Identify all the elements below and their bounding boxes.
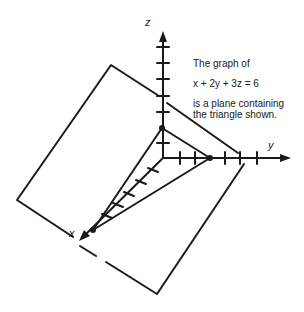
caption: The graph of x + 2y + 3z = 6 is a plane … [193,58,303,120]
x-intercept-dot [90,227,96,233]
plane-diagram [0,0,304,312]
y-axis [163,152,282,164]
caption-line-4: the triangle shown. [193,109,303,120]
x-axis-label: x [69,227,75,239]
x-axis [84,158,163,236]
caption-line-3: is a plane containing [193,98,303,109]
triangle [93,128,210,230]
y-intercept-dot [207,155,213,161]
z-arrow-icon [159,31,167,42]
z-axis-label: z [145,16,151,28]
y-axis-label: y [268,139,274,151]
z-intercept-dot [159,125,165,131]
z-axis [157,38,169,158]
y-arrow-icon [280,154,291,162]
caption-equation: x + 2y + 3z = 6 [193,78,303,89]
caption-line-1: The graph of [193,58,303,69]
